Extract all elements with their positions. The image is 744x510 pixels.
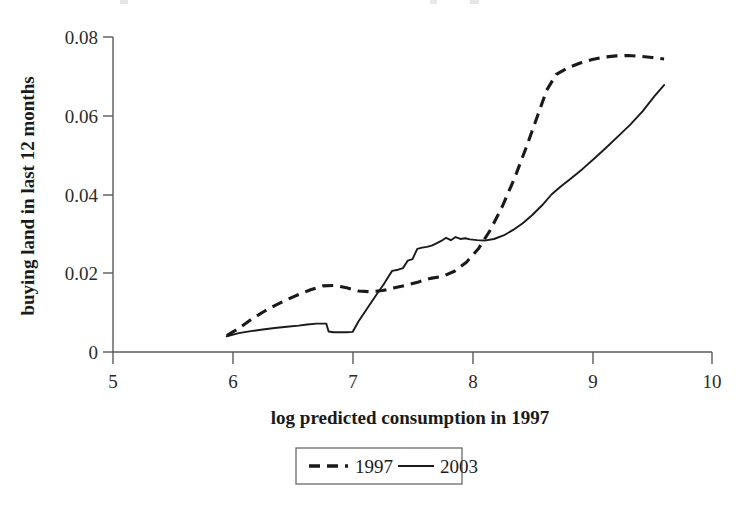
y-tick-label-0.04: 0.04 bbox=[65, 185, 99, 206]
x-axis-title: log predicted consumption in 1997 bbox=[271, 407, 550, 428]
x-tick-label-7: 7 bbox=[348, 371, 358, 392]
y-tick-label-0: 0 bbox=[89, 342, 99, 363]
x-tick-label-10: 10 bbox=[703, 371, 722, 392]
y-tick-label-0.08: 0.08 bbox=[65, 27, 98, 48]
cropped-caption-remnant bbox=[120, 0, 479, 4]
x-tick-label-5: 5 bbox=[108, 371, 118, 392]
legend: 1997 2003 bbox=[296, 448, 478, 484]
legend-label-2003: 2003 bbox=[440, 456, 478, 477]
figure-container: 0.08 0.06 0.04 0.02 0 5 6 7 8 9 10 buyin… bbox=[0, 0, 744, 510]
legend-label-1997: 1997 bbox=[355, 456, 393, 477]
chart-canvas: 0.08 0.06 0.04 0.02 0 5 6 7 8 9 10 buyin… bbox=[0, 0, 744, 510]
x-tick-label-8: 8 bbox=[468, 371, 478, 392]
y-axis bbox=[103, 37, 113, 352]
x-axis bbox=[113, 352, 712, 364]
y-axis-title: buying land in last 12 months bbox=[17, 76, 38, 315]
x-tick-label-6: 6 bbox=[228, 371, 238, 392]
series-line-1997 bbox=[227, 56, 664, 336]
x-tick-label-9: 9 bbox=[588, 371, 598, 392]
y-tick-label-0.02: 0.02 bbox=[65, 263, 98, 284]
y-tick-label-0.06: 0.06 bbox=[65, 106, 98, 127]
